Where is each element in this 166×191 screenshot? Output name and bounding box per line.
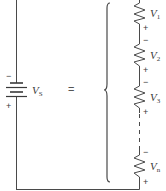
circuit-diagram: − + VS = V1 + − V2 + − V3 + − Vn +: [0, 0, 166, 191]
resistor-n-plus-sign: +: [143, 178, 148, 187]
resistor-n-symbol: V: [150, 160, 157, 172]
resistor-1-plus-sign: +: [143, 24, 148, 33]
resistor-2-plus-sign: +: [143, 66, 148, 75]
resistor-1-symbol: V: [150, 7, 157, 19]
resistor-n-subscript: n: [157, 166, 161, 174]
resistor-n-label: Vn: [150, 161, 160, 174]
resistor-2-minus-sign: −: [143, 36, 148, 45]
resistor-2-subscript: 2: [157, 55, 161, 63]
resistor-3-zigzag: [134, 86, 145, 108]
resistor-1-label: V1: [150, 8, 160, 21]
resistor-1-zigzag: [134, 0, 145, 24]
resistor-3-label: V3: [150, 92, 160, 105]
source-voltage-label: VS: [32, 85, 43, 98]
source-voltage-symbol: V: [32, 84, 39, 96]
source-voltage-subscript: S: [39, 90, 43, 98]
resistor-n-zigzag: [134, 155, 145, 177]
resistor-1-subscript: 1: [157, 13, 161, 21]
resistor-2-label: V2: [150, 50, 160, 63]
battery-icon: [6, 83, 27, 97]
curly-brace: [104, 3, 110, 182]
resistor-3-minus-sign: −: [143, 78, 148, 87]
resistor-3-symbol: V: [150, 91, 157, 103]
resistor-2-symbol: V: [150, 49, 157, 61]
equals-sign: =: [68, 84, 74, 95]
source-plus-sign: +: [6, 102, 11, 111]
resistor-n-minus-sign: −: [143, 148, 148, 157]
circuit-wiring: [0, 0, 166, 191]
source-minus-sign: −: [6, 72, 11, 81]
resistor-3-subscript: 3: [157, 97, 161, 105]
resistor-3-plus-sign: +: [143, 108, 148, 117]
resistor-2-zigzag: [134, 44, 145, 66]
